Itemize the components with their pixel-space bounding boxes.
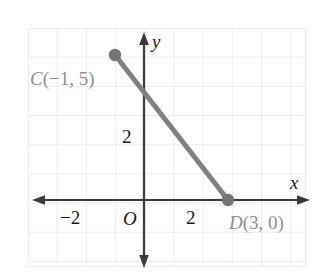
x-axis-arrow-left	[32, 195, 45, 205]
y-axis-arrow-down	[139, 255, 149, 268]
x-axis	[32, 195, 310, 205]
segment-cd	[115, 55, 228, 200]
x-tick-label-negative-two: −2	[60, 208, 80, 227]
point-d-label: D(3, 0)	[229, 213, 284, 232]
x-axis-label: x	[290, 173, 298, 192]
y-axis	[139, 32, 149, 268]
point-d-coords: (3, 0)	[243, 212, 284, 233]
x-axis-arrow-right	[297, 195, 310, 205]
point-c-name: C	[30, 68, 43, 89]
y-tick-label-two: 2	[122, 127, 132, 146]
point-c-marker	[109, 49, 121, 61]
graph-overlay	[0, 0, 325, 276]
point-c-label: C(−1, 5)	[30, 69, 95, 88]
x-tick-label-two: 2	[186, 208, 196, 227]
coordinate-plane-figure: y x −2 2 2 O C(−1, 5) D(3, 0)	[0, 0, 325, 276]
point-d-marker	[222, 194, 234, 206]
y-axis-label: y	[152, 32, 160, 51]
point-d-name: D	[229, 212, 243, 233]
point-c-coords: (−1, 5)	[43, 68, 95, 89]
y-axis-arrow-up	[139, 32, 149, 45]
origin-label: O	[123, 209, 137, 228]
